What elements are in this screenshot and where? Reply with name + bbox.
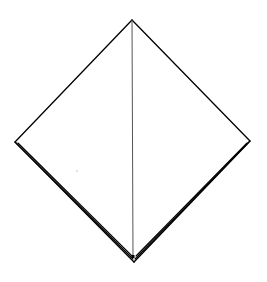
diagram-canvas [0, 0, 267, 282]
lower-left-layer-2 [16, 143, 133, 259]
lower-right-layer-3 [136, 143, 247, 256]
stray-dot [76, 170, 78, 172]
bottom-tip-mark [132, 255, 135, 258]
lower-left-layered-edges [15, 142, 134, 262]
lower-left-layer-3 [18, 143, 132, 256]
upper-left-edge [15, 20, 132, 142]
lower-right-layer-2 [135, 142, 249, 259]
center-fold-line [132, 20, 133, 258]
upper-right-edge [132, 20, 250, 141]
lower-right-layered-edges [134, 141, 250, 262]
